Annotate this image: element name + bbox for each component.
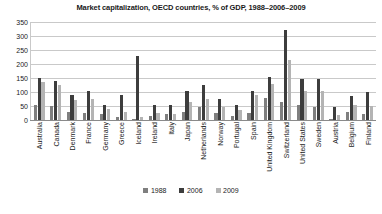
bar-group: [146, 22, 162, 120]
x-axis-tick-label: Japan: [184, 122, 191, 141]
bar: [41, 82, 44, 120]
bar: [91, 99, 94, 120]
bar: [280, 102, 283, 120]
x-axis-label-cell: Finland: [359, 122, 375, 184]
bar: [329, 119, 332, 120]
bar: [74, 100, 77, 120]
x-axis-label-cell: United Kingdom: [261, 122, 277, 184]
bar: [366, 92, 369, 120]
legend-item[interactable]: 2006: [179, 187, 202, 194]
y-axis-tick-label: 300: [2, 33, 28, 40]
x-axis-label-cell: Switzerland: [277, 122, 293, 184]
legend-item[interactable]: 1988: [143, 187, 166, 194]
x-axis-tick-label: France: [85, 122, 92, 144]
bar: [202, 85, 205, 120]
bar: [264, 98, 267, 120]
y-axis-tick-label: 250: [2, 47, 28, 54]
y-axis-tick-labels: 350300250200150100500: [0, 0, 28, 214]
x-axis-tick-label: United Kingdom: [266, 122, 273, 172]
bar: [107, 109, 110, 120]
bar: [198, 107, 201, 120]
bar-group: [228, 22, 244, 120]
x-axis-tick-label: Spain: [249, 122, 256, 140]
x-axis-label-cell: Ireland: [146, 122, 162, 184]
bar-group: [277, 22, 293, 120]
bar: [182, 112, 185, 120]
bar: [362, 114, 365, 120]
x-axis-label-cell: United States: [294, 122, 310, 184]
bar: [153, 105, 156, 120]
x-axis-tick-label: Portugal: [233, 122, 240, 148]
bar-group: [47, 22, 63, 120]
bar-group: [244, 22, 260, 120]
bar: [124, 112, 127, 120]
x-axis-tick-label: Finland: [364, 122, 371, 145]
x-axis-label-cell: Sweden: [310, 122, 326, 184]
x-axis-label-cell: Germany: [97, 122, 113, 184]
bar: [83, 113, 86, 120]
bar: [173, 114, 176, 120]
x-axis-tick-label: Austria: [331, 122, 338, 144]
legend-label: 2006: [187, 187, 203, 194]
bar: [350, 96, 353, 120]
bar: [58, 85, 61, 120]
bar: [67, 112, 70, 120]
bar: [238, 110, 241, 120]
legend-swatch-icon: [143, 188, 148, 193]
bar: [214, 113, 217, 120]
bar: [313, 107, 316, 120]
bar-group: [179, 22, 195, 120]
bar: [50, 106, 53, 120]
x-axis-tick-label: Belgium: [348, 122, 355, 147]
legend-item[interactable]: 2009: [216, 187, 239, 194]
bar-group: [310, 22, 326, 120]
bar: [235, 105, 238, 120]
x-axis-tick-label: Norway: [216, 122, 223, 146]
bar: [70, 95, 73, 120]
bar-group: [327, 22, 343, 120]
bar-group: [212, 22, 228, 120]
legend-swatch-icon: [179, 188, 184, 193]
x-axis-tick-label: Netherlands: [200, 122, 207, 160]
bar-group: [113, 22, 129, 120]
bar: [156, 113, 159, 120]
x-axis-label-cell: France: [80, 122, 96, 184]
bar-group: [130, 22, 146, 120]
x-axis-tick-label: Canada: [52, 122, 59, 147]
bar: [218, 99, 221, 120]
bar: [100, 114, 103, 120]
x-axis-tick-label: Italy: [167, 122, 174, 135]
x-axis-label-cell: Spain: [244, 122, 260, 184]
bar: [54, 81, 57, 120]
bar-group: [97, 22, 113, 120]
y-axis-tick-label: 350: [2, 19, 28, 26]
y-axis-tick-label: 50: [2, 103, 28, 110]
bar: [346, 112, 349, 120]
x-axis-label-cell: Japan: [179, 122, 195, 184]
x-axis-label-cell: Canada: [47, 122, 63, 184]
legend-label: 1988: [151, 187, 167, 194]
bar: [317, 79, 320, 120]
bar-group: [195, 22, 211, 120]
x-axis-tick-label: Ireland: [151, 122, 158, 143]
chart-legend: 198820062009: [0, 187, 382, 194]
bar: [304, 91, 307, 120]
bar: [185, 91, 188, 120]
bar: [337, 115, 340, 120]
x-axis-tick-label: Iceland: [134, 122, 141, 145]
x-axis-label-cell: Austria: [327, 122, 343, 184]
bar: [353, 105, 356, 120]
bar: [288, 60, 291, 120]
bar: [251, 91, 254, 120]
bar: [271, 84, 274, 120]
y-axis-tick-label: 200: [2, 61, 28, 68]
bar-group: [64, 22, 80, 120]
bar-group: [80, 22, 96, 120]
bar: [149, 116, 152, 120]
y-axis-tick-label: 100: [2, 89, 28, 96]
bar: [169, 105, 172, 120]
x-axis-label-cell: Greece: [113, 122, 129, 184]
x-axis-tick-label: Denmark: [69, 122, 76, 150]
x-axis-label-cell: Norway: [212, 122, 228, 184]
bar: [333, 107, 336, 120]
